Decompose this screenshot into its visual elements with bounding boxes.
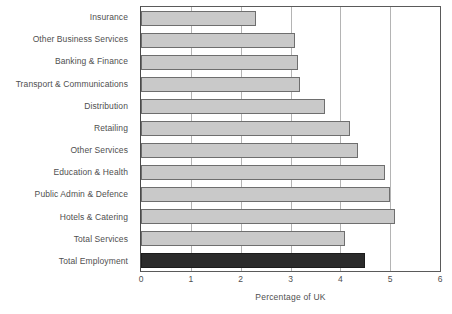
category-label: Retailing xyxy=(0,117,134,139)
bar-row xyxy=(141,95,440,117)
category-label: Banking & Finance xyxy=(0,50,134,72)
bar[interactable] xyxy=(141,33,295,48)
category-label: Total Employment xyxy=(0,250,134,272)
x-tick-label: 6 xyxy=(438,274,443,284)
bar-row xyxy=(141,7,440,29)
category-label: Total Services xyxy=(0,228,134,250)
bar[interactable] xyxy=(141,165,385,180)
bar[interactable] xyxy=(141,231,345,246)
bar-chart: InsuranceOther Business ServicesBanking … xyxy=(0,0,452,314)
bar-row xyxy=(141,161,440,183)
plot-area xyxy=(140,6,441,272)
bar[interactable] xyxy=(141,99,325,114)
x-tick-label: 0 xyxy=(139,274,144,284)
x-tick-label: 4 xyxy=(338,274,343,284)
bar-row xyxy=(141,51,440,73)
category-label: Transport & Communications xyxy=(0,73,134,95)
x-tick-label: 2 xyxy=(238,274,243,284)
bar[interactable] xyxy=(141,77,300,92)
category-label: Distribution xyxy=(0,95,134,117)
bar-row xyxy=(141,205,440,227)
bar[interactable] xyxy=(141,209,395,224)
category-label: Insurance xyxy=(0,6,134,28)
x-tick-label: 5 xyxy=(388,274,393,284)
bar[interactable] xyxy=(141,121,350,136)
x-tick-label: 1 xyxy=(188,274,193,284)
bar-series xyxy=(141,7,440,271)
bar-row xyxy=(141,117,440,139)
value-axis-ticks: 0123456 xyxy=(140,274,441,288)
category-label: Other Services xyxy=(0,139,134,161)
bar[interactable] xyxy=(141,143,358,158)
category-axis-labels: InsuranceOther Business ServicesBanking … xyxy=(0,6,134,272)
x-axis-title: Percentage of UK xyxy=(140,292,441,302)
bar[interactable] xyxy=(141,55,298,70)
category-label: Education & Health xyxy=(0,161,134,183)
x-tick-label: 3 xyxy=(288,274,293,284)
bar-row xyxy=(141,227,440,249)
bar[interactable] xyxy=(141,11,256,26)
category-label: Public Admin & Defence xyxy=(0,183,134,205)
bar-row xyxy=(141,73,440,95)
category-label: Hotels & Catering xyxy=(0,206,134,228)
bar-row xyxy=(141,249,440,271)
bar-row xyxy=(141,183,440,205)
bar[interactable] xyxy=(141,187,390,202)
bar[interactable] xyxy=(141,253,365,268)
category-label: Other Business Services xyxy=(0,28,134,50)
bar-row xyxy=(141,139,440,161)
bar-row xyxy=(141,29,440,51)
